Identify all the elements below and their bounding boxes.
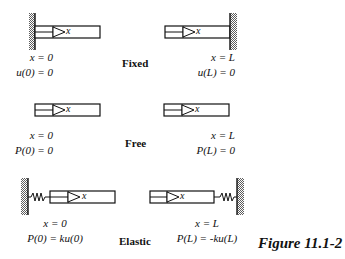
free-left-position: x = 0 xyxy=(30,129,53,141)
axis-label-elastic-left: x xyxy=(82,190,86,201)
fixed-right-condition: u(L) = 0 xyxy=(198,66,235,78)
case-label-fixed: Fixed xyxy=(122,57,148,69)
fixed-left-position: x = 0 xyxy=(30,51,53,63)
axis-label-fixed-left: x xyxy=(66,25,70,36)
fixed-right-wall xyxy=(230,13,237,50)
case-label-free: Free xyxy=(125,137,146,149)
elastic-left-spring xyxy=(28,193,50,201)
axis-label-elastic-right: x xyxy=(180,190,184,201)
elastic-right-spring xyxy=(214,193,237,201)
fixed-left-condition: u(0) = 0 xyxy=(16,66,53,78)
axis-label-free-right: x xyxy=(195,103,199,114)
elastic-right-condition: P(L) = -ku(L) xyxy=(172,232,242,244)
elastic-right-wall xyxy=(237,178,244,215)
figure-caption: Figure 11.1-2 xyxy=(258,235,342,252)
elastic-left-position: x = 0 xyxy=(20,217,90,229)
free-right-condition: P(L) = 0 xyxy=(196,144,235,156)
fixed-left-wall xyxy=(29,13,35,50)
elastic-left-wall xyxy=(21,178,28,215)
elastic-left-condition: P(0) = ku(0) xyxy=(20,232,90,244)
free-right-position: x = L xyxy=(211,129,235,141)
elastic-right-position: x = L xyxy=(172,217,242,229)
fixed-right-position: x = L xyxy=(211,51,235,63)
free-left-condition: P(0) = 0 xyxy=(15,144,53,156)
axis-label-fixed-right: x xyxy=(196,25,200,36)
case-label-elastic: Elastic xyxy=(119,235,151,247)
axis-label-free-left: x xyxy=(66,103,70,114)
